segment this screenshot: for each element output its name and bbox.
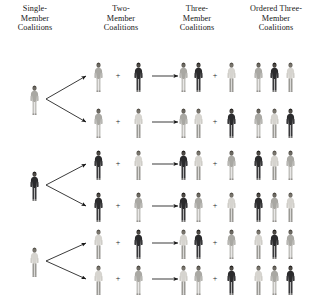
ordered-figure-1-row-3	[252, 191, 265, 222]
plus-sign-three-row-0: +	[211, 72, 219, 80]
two-member-figure-1-row-2	[92, 149, 105, 180]
three-member-figure-3-row-4	[225, 228, 238, 259]
header-line-3: Coalitions	[166, 23, 228, 33]
plus-sign-two-row-5: +	[114, 275, 122, 283]
header-line-3: Coalitions	[90, 23, 152, 33]
ordered-figure-1-row-4	[252, 228, 265, 259]
ordered-figure-1-row-0	[252, 61, 265, 92]
ordered-figure-1-row-1	[252, 107, 265, 138]
branch-arrow-0-1	[46, 99, 86, 122]
coalition-diagram: Single- Member Coalitions Two- Member Co…	[0, 0, 320, 303]
header-line-1: Ordered Three-	[236, 4, 316, 14]
plus-sign-two-row-2: +	[114, 160, 122, 168]
ordered-figure-2-row-5	[268, 264, 281, 295]
header-line-3: Coalitions	[236, 23, 316, 33]
ordered-figure-3-row-0	[284, 61, 297, 92]
three-member-figure-3-row-2	[225, 149, 238, 180]
three-member-figure-1-row-0	[177, 61, 190, 92]
branch-arrow-0-0	[46, 76, 86, 99]
two-member-figure-1-row-3	[92, 191, 105, 222]
ordered-figure-3-row-3	[284, 191, 297, 222]
three-member-figure-3-row-0	[225, 61, 238, 92]
two-member-figure-1-row-1	[92, 107, 105, 138]
header-line-1: Two-	[90, 4, 152, 14]
two-member-figure-2-row-1	[132, 107, 145, 138]
plus-sign-three-row-5: +	[211, 275, 219, 283]
plus-sign-three-row-3: +	[211, 202, 219, 210]
ordered-figure-3-row-5	[284, 264, 297, 295]
three-member-figure-1-row-5	[177, 264, 190, 295]
three-member-figure-2-row-5	[192, 264, 205, 295]
three-member-figure-3-row-1	[225, 107, 238, 138]
three-member-figure-3-row-5	[225, 264, 238, 295]
three-member-figure-2-row-2	[192, 149, 205, 180]
three-member-figure-3-row-3	[225, 191, 238, 222]
three-member-figure-1-row-1	[177, 107, 190, 138]
header-line-2: Member	[166, 14, 228, 24]
ordered-figure-2-row-0	[268, 61, 281, 92]
branch-arrow-2-1	[46, 261, 86, 279]
plus-sign-two-row-3: +	[114, 202, 122, 210]
two-member-figure-2-row-4	[132, 228, 145, 259]
ordered-figure-2-row-3	[268, 191, 281, 222]
two-member-figure-2-row-2	[132, 149, 145, 180]
header-line-2: Member	[90, 14, 152, 24]
ordered-figure-2-row-4	[268, 228, 281, 259]
column-header-ordered: Ordered Three- Member Coalitions	[236, 4, 316, 33]
three-member-figure-2-row-4	[192, 228, 205, 259]
plus-sign-three-row-1: +	[211, 118, 219, 126]
two-member-figure-2-row-0	[132, 61, 145, 92]
single-member-figure-2	[28, 246, 41, 277]
header-line-2: Member	[236, 14, 316, 24]
column-header-three: Three- Member Coalitions	[166, 4, 228, 33]
three-member-figure-1-row-2	[177, 149, 190, 180]
ordered-figure-3-row-2	[284, 149, 297, 180]
two-member-figure-1-row-5	[92, 264, 105, 295]
plus-sign-two-row-4: +	[114, 239, 122, 247]
three-member-figure-2-row-0	[192, 61, 205, 92]
ordered-figure-1-row-2	[252, 149, 265, 180]
branch-arrow-2-0	[46, 243, 86, 261]
header-line-3: Coalitions	[4, 23, 66, 33]
ordered-figure-3-row-4	[284, 228, 297, 259]
three-member-figure-2-row-3	[192, 191, 205, 222]
plus-sign-two-row-1: +	[114, 118, 122, 126]
ordered-figure-3-row-1	[284, 107, 297, 138]
branch-arrow-1-1	[46, 185, 86, 206]
three-member-figure-1-row-3	[177, 191, 190, 222]
two-member-figure-1-row-0	[92, 61, 105, 92]
three-member-figure-1-row-4	[177, 228, 190, 259]
plus-sign-three-row-2: +	[211, 160, 219, 168]
two-member-figure-2-row-5	[132, 264, 145, 295]
two-member-figure-2-row-3	[132, 191, 145, 222]
header-line-2: Member	[4, 14, 66, 24]
column-header-two: Two- Member Coalitions	[90, 4, 152, 33]
two-member-figure-1-row-4	[92, 228, 105, 259]
header-line-1: Three-	[166, 4, 228, 14]
single-member-figure-0	[28, 84, 41, 115]
three-member-figure-2-row-1	[192, 107, 205, 138]
plus-sign-three-row-4: +	[211, 239, 219, 247]
plus-sign-two-row-0: +	[114, 72, 122, 80]
ordered-figure-1-row-5	[252, 264, 265, 295]
ordered-figure-2-row-1	[268, 107, 281, 138]
branch-arrow-1-0	[46, 164, 86, 185]
single-member-figure-1	[28, 170, 41, 201]
header-line-1: Single-	[4, 4, 66, 14]
ordered-figure-2-row-2	[268, 149, 281, 180]
column-header-single: Single- Member Coalitions	[4, 4, 66, 33]
